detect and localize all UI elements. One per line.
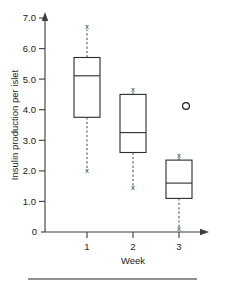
boxplot-chart: 0 1.0 2.0 3.0 4.0 5.0 6.0 7.0 1 2 3 <box>0 0 225 288</box>
x-axis-arrowhead <box>200 229 209 235</box>
box-plot-week-3: x x <box>166 103 192 233</box>
y-tick-label-2: 2.0 <box>23 165 36 176</box>
y-tick-label-3: 3.0 <box>23 135 36 146</box>
x-tick-label-1: 1 <box>84 241 89 252</box>
y-tick-label-6: 6.0 <box>23 43 36 54</box>
outlier-point-week-3 <box>183 103 190 110</box>
whisker-cap-upper-week-1: x <box>85 23 89 30</box>
y-axis <box>42 12 48 232</box>
whisker-cap-lower-week-2: x <box>131 184 135 191</box>
y-axis-arrowhead <box>42 12 48 21</box>
whisker-cap-upper-week-3: x <box>177 152 181 159</box>
whisker-cap-lower-week-1: x <box>85 167 89 174</box>
box-plot-week-1: x x <box>74 23 100 174</box>
x-axis-title: Week <box>121 255 145 266</box>
box-week-2 <box>120 94 146 152</box>
y-axis-title: Insulin production per islet <box>9 69 20 180</box>
x-tick-label-3: 3 <box>176 241 181 252</box>
box-week-1 <box>74 58 100 118</box>
y-tick-label-5: 5.0 <box>23 74 36 85</box>
box-week-3 <box>166 160 192 198</box>
x-axis <box>45 229 209 235</box>
box-plot-week-2: x x <box>120 86 146 191</box>
whisker-cap-upper-week-2: x <box>131 86 135 93</box>
y-tick-label-4: 4.0 <box>23 104 36 115</box>
y-tick-label-7: 7.0 <box>23 12 36 23</box>
y-tick-group: 0 1.0 2.0 3.0 4.0 5.0 6.0 7.0 <box>23 12 45 237</box>
x-tick-group: 1 2 3 <box>84 232 181 252</box>
y-tick-label-1: 1.0 <box>23 196 36 207</box>
x-tick-label-2: 2 <box>130 241 135 252</box>
whisker-cap-lower-week-3: x <box>177 225 181 232</box>
y-tick-label-0: 0 <box>32 226 37 237</box>
boxplot-figure: 0 1.0 2.0 3.0 4.0 5.0 6.0 7.0 1 2 3 <box>0 0 225 288</box>
